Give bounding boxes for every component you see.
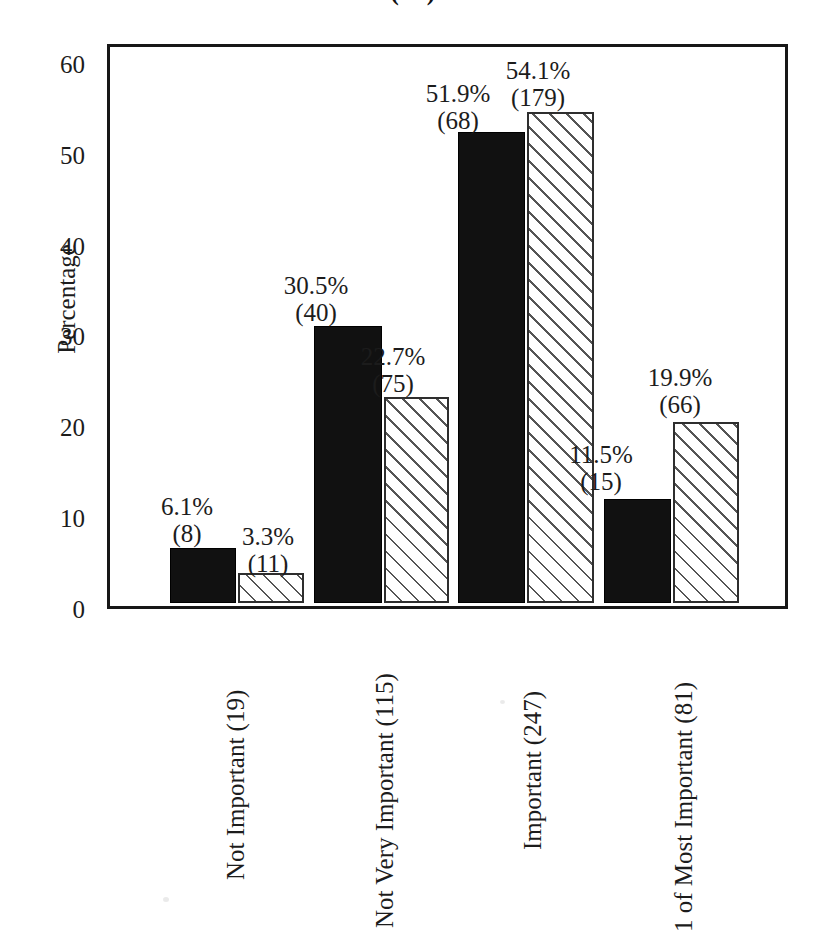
bar-value-percent: 54.1% — [478, 57, 598, 84]
y-tick-label-10: 10 — [25, 506, 85, 531]
bar-value-percent: 22.7% — [333, 343, 453, 370]
y-tick-label-40: 40 — [25, 234, 85, 259]
scan-speckle — [163, 897, 169, 902]
bar-value-label: 54.1% (179) — [478, 57, 598, 111]
y-tick-label-0: 0 — [25, 597, 85, 622]
bar-value-label: 19.9% (66) — [620, 364, 740, 418]
y-tick-label-20: 20 — [25, 415, 85, 440]
chart-title: ( ) — [0, 0, 826, 6]
bar-value-count: (11) — [213, 550, 323, 577]
bar-value-label: 3.3% (11) — [213, 523, 323, 577]
bar-value-percent: 30.5% — [256, 272, 376, 299]
x-category-label-one-of-most-important: 1 of Most Important (81) — [670, 682, 698, 932]
bar-value-count: (75) — [333, 370, 453, 397]
bar-value-count: (66) — [620, 391, 740, 418]
bar-value-percent: 3.3% — [213, 523, 323, 550]
y-axis-title: Percentage — [53, 199, 81, 399]
bar-hatched-one-of-most-important[interactable] — [673, 422, 739, 603]
y-tick-label-60: 60 — [25, 52, 85, 77]
bar-value-count: (15) — [541, 468, 661, 495]
bar-hatched-not-important[interactable] — [238, 573, 304, 603]
x-category-label-important: Important (247) — [519, 691, 547, 850]
bar-hatched-important[interactable] — [527, 112, 594, 603]
bar-value-percent: 19.9% — [620, 364, 740, 391]
bar-value-count: (40) — [256, 299, 376, 326]
bar-value-percent: 6.1% — [132, 493, 242, 520]
y-tick-label-30: 30 — [25, 324, 85, 349]
x-category-label-not-important: Not Important (19) — [222, 690, 250, 880]
bar-chart: ( ) Percentage 60 50 40 30 20 10 0 — [0, 0, 826, 948]
bar-hatched-not-very-important[interactable] — [384, 397, 449, 603]
bar-value-percent: 11.5% — [541, 441, 661, 468]
bar-value-label: 30.5% (40) — [256, 272, 376, 326]
bar-value-label: 11.5% (15) — [541, 441, 661, 495]
x-category-label-not-very-important: Not Very Important (115) — [371, 673, 399, 928]
bar-solid-one-of-most-important[interactable] — [604, 499, 671, 603]
bar-value-count: (179) — [478, 84, 598, 111]
bar-value-count: (68) — [398, 107, 518, 134]
bar-value-label: 22.7% (75) — [333, 343, 453, 397]
bar-solid-important[interactable] — [458, 132, 525, 603]
y-tick-label-50: 50 — [25, 143, 85, 168]
scan-speckle — [500, 700, 505, 704]
